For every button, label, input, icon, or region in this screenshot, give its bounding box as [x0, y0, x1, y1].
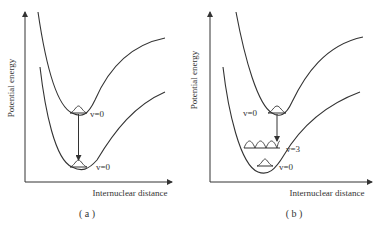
panel-b: Potential energy Internuclear distance (…	[189, 12, 372, 220]
caption-a: ( a )	[79, 208, 95, 220]
caption-b: ( b )	[286, 208, 303, 220]
upper-level-label-b: v=0	[243, 108, 258, 118]
upper-potential-curve-a	[38, 12, 165, 115]
upper-potential-curve-b	[236, 12, 363, 115]
x-axis-label-a: Internuclear distance	[92, 188, 167, 198]
lower-potential-curve-b	[223, 67, 360, 173]
y-axis-label-b: Potential energy	[189, 50, 199, 109]
lower-level-label-b: v=0	[279, 162, 294, 172]
lower-level-label-a: v=0	[96, 162, 111, 172]
y-axis-label-a: Potential energy	[6, 58, 16, 117]
v3-level-label-b: v=3	[286, 144, 301, 154]
diagram-canvas: Potential energy Internuclear distance (…	[0, 0, 379, 228]
x-axis-label-b: Internuclear distance	[289, 188, 364, 198]
panel-a: Potential energy Internuclear distance (…	[6, 12, 172, 220]
upper-level-label-a: v=0	[90, 109, 105, 119]
